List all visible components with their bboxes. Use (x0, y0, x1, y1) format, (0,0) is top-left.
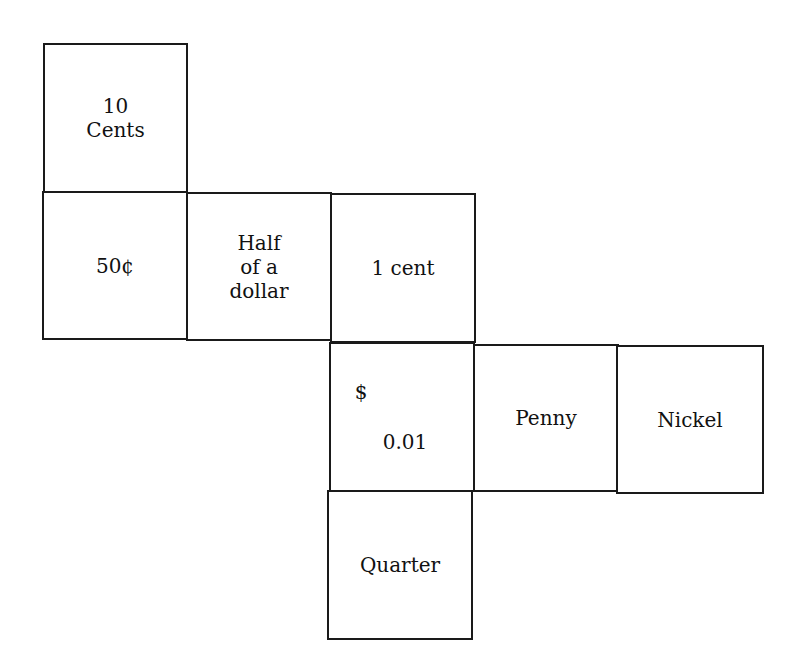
cell-label: Half of a dollar (229, 231, 288, 303)
dollar-amount: $ 0.01 (377, 356, 428, 478)
cell-label: 10 Cents (86, 94, 144, 142)
cell-label: Nickel (657, 408, 722, 432)
dollar-sign: $ (355, 380, 428, 404)
cell-nickel: Nickel (616, 345, 764, 494)
cell-half-dollar: Half of a dollar (186, 192, 332, 341)
cell-quarter: Quarter (327, 490, 473, 640)
cell-10-cents: 10 Cents (43, 43, 188, 193)
cell-50-cent: 50¢ (42, 191, 188, 340)
cell-penny: Penny (473, 344, 619, 492)
cell-dollar-0-01: $ 0.01 (329, 342, 475, 492)
cell-label: Quarter (360, 553, 440, 577)
cell-label: 1 cent (371, 256, 434, 280)
cell-label: 50¢ (96, 254, 134, 278)
dollar-value: 0.01 (383, 430, 428, 454)
cell-label: Penny (515, 406, 576, 430)
cell-1-cent: 1 cent (330, 193, 476, 343)
